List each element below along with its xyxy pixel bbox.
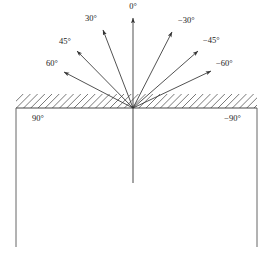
hatch-line: [9, 94, 23, 108]
hatch-line: [16, 94, 30, 108]
ray-30-label: 30°: [85, 13, 97, 23]
ray-45-label: 45°: [59, 36, 71, 46]
hatch-line: [211, 94, 225, 108]
hatch-line: [24, 94, 38, 108]
ray-60-arrow: [64, 72, 133, 108]
hatch-line: [74, 94, 88, 108]
hatch-line: [240, 94, 254, 108]
hatch-line: [160, 94, 174, 108]
ray-minus-30-arrow: [133, 32, 172, 108]
angle-convention-figure: 0°30°45°60°−30°−45°−60° 90°−90°: [0, 0, 267, 260]
hatch-line: [96, 94, 110, 108]
ray-minus-60-arrow: [133, 71, 211, 108]
hatch-line: [175, 94, 189, 108]
hatch-line: [88, 94, 102, 108]
hatch-line: [168, 94, 182, 108]
ray-minus-45-arrow: [133, 51, 198, 108]
ray-minus-60-label: −60°: [216, 58, 233, 68]
hatch-line: [261, 94, 267, 108]
hatch-line: [204, 94, 218, 108]
hatch-line: [247, 94, 261, 108]
substrate-box: [16, 108, 257, 247]
hatch-line: [67, 94, 81, 108]
ray-minus-45-label: −45°: [203, 35, 220, 45]
surface-label-minus-90: −90°: [224, 113, 241, 123]
diagram-canvas: 0°30°45°60°−30°−45°−60° 90°−90°: [0, 0, 267, 260]
hatch-line: [189, 94, 203, 108]
hatch-line: [45, 94, 59, 108]
hatch-line: [232, 94, 246, 108]
hatch-line: [81, 94, 95, 108]
hatch-line: [182, 94, 196, 108]
hatch-line: [2, 94, 16, 108]
surface-label-90: 90°: [32, 113, 44, 123]
hatch-line: [196, 94, 210, 108]
hatch-line: [38, 94, 52, 108]
hatch-line: [218, 94, 232, 108]
hatch-line: [31, 94, 45, 108]
ray-labels-group: 0°30°45°60°−30°−45°−60°: [46, 1, 233, 68]
ray-minus-30-label: −30°: [178, 15, 195, 25]
hatch-line: [52, 94, 66, 108]
hatch-line: [153, 94, 167, 108]
hatch-line: [60, 94, 74, 108]
ray-0-label: 0°: [129, 1, 137, 11]
hatch-line: [254, 94, 267, 108]
surface-angle-labels-group: 90°−90°: [32, 113, 241, 123]
hatch-line: [225, 94, 239, 108]
ray-45-arrow: [77, 51, 133, 108]
ray-60-label: 60°: [46, 58, 58, 68]
